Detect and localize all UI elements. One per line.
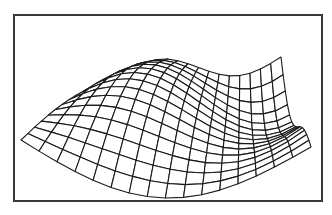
mesh-cell xyxy=(129,176,150,196)
mesh-cell xyxy=(223,147,239,155)
wireframe-surface xyxy=(0,0,332,215)
mesh-cell xyxy=(250,69,261,89)
mesh-cell xyxy=(147,181,168,198)
mesh-cell xyxy=(252,123,266,131)
mesh-cell xyxy=(252,130,266,136)
mesh-cell xyxy=(240,73,251,89)
mesh-cell xyxy=(165,184,185,199)
mesh-cell xyxy=(185,172,204,185)
mesh-cell xyxy=(251,114,264,124)
mesh-cell xyxy=(251,86,263,102)
mesh-cell xyxy=(184,184,203,198)
mesh-cell xyxy=(251,102,263,114)
mesh-cell xyxy=(204,163,222,173)
mesh-cell xyxy=(205,153,222,164)
mesh-cell xyxy=(168,169,187,184)
mesh-cell xyxy=(187,160,205,173)
